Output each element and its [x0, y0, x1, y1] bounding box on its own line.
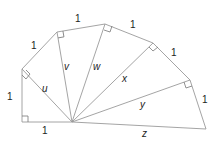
label-1-left: 1 — [7, 91, 13, 102]
segment-w — [72, 24, 105, 122]
radial-lines — [22, 24, 190, 122]
label-w: w — [93, 61, 101, 72]
label-y: y — [139, 99, 146, 110]
label-1-right: 1 — [171, 47, 177, 58]
segment-x — [72, 43, 153, 122]
label-1-top: 1 — [75, 13, 81, 24]
label-1-bottom: 1 — [42, 125, 48, 136]
outer-edges — [22, 24, 206, 129]
label-u: u — [42, 83, 48, 94]
right-angle-markers — [22, 26, 192, 122]
label-1-upper-left: 1 — [31, 40, 37, 51]
label-1-far-right: 1 — [202, 94, 208, 105]
label-x: x — [121, 73, 128, 84]
label-1-top-right: 1 — [130, 19, 136, 30]
label-z: z — [141, 128, 147, 139]
label-v: v — [64, 61, 70, 72]
spiral-diagram: 1 1 1 1 1 1 1 u v w x y z — [0, 0, 219, 146]
segment-y — [72, 80, 190, 122]
